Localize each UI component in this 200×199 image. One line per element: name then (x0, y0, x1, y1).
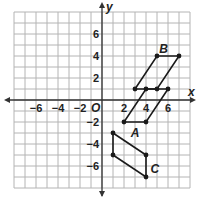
coordinate-plane: xyO−6−4−2246642−2−4−6 ABC (0, 0, 200, 199)
shape-label: A (130, 126, 140, 140)
y-axis-label: y (105, 0, 114, 14)
vertex-point (144, 120, 149, 125)
y-tick-label: 6 (93, 28, 99, 40)
x-axis-label: x (187, 85, 196, 99)
y-axis-down-arrow-icon (99, 191, 105, 197)
y-axis-up-arrow-icon (99, 2, 105, 8)
vertex-point (155, 87, 160, 92)
vertex-point (111, 131, 116, 136)
vertex-point (144, 175, 149, 180)
vertex-point (144, 153, 149, 158)
vertex-point (133, 87, 138, 92)
vertex-point (111, 153, 116, 158)
y-tick-label: −4 (86, 138, 99, 150)
x-axis-left-arrow-icon (4, 97, 10, 103)
y-tick-label: −2 (86, 116, 99, 128)
axes (4, 2, 196, 197)
vertex-point (122, 120, 127, 125)
y-tick-label: −6 (86, 160, 99, 172)
origin-label: O (91, 101, 101, 115)
y-tick-label: 4 (93, 50, 100, 62)
y-tick-label: 2 (93, 72, 99, 84)
shape-label: B (159, 42, 168, 56)
vertex-point (177, 54, 182, 59)
shape-label: C (150, 162, 159, 176)
coordinate-plane-figure: xyO−6−4−2246642−2−4−6 ABC (0, 0, 200, 199)
vertex-point (166, 87, 171, 92)
